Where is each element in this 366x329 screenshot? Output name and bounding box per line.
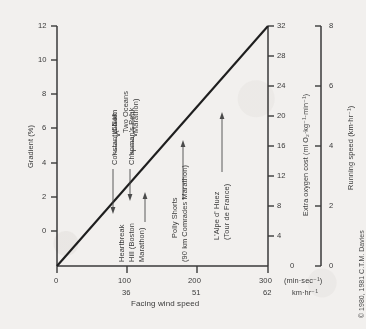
left-tick-10: 10 bbox=[38, 55, 47, 64]
x-axis-ticks bbox=[57, 266, 268, 273]
x-tick-100: 100 bbox=[118, 276, 131, 285]
x-tick-300: 300 bbox=[259, 276, 272, 285]
right-tick-8: 8 bbox=[329, 21, 333, 30]
left-tick-12: 12 bbox=[38, 21, 47, 30]
x-unit-minsec: (min·sec⁻¹) bbox=[284, 276, 322, 285]
y-axis-oxygen-cost-title: Extra oxygen cost (ml O₂·kg⁻¹·min⁻¹) bbox=[301, 94, 310, 216]
mid-tick-20: 20 bbox=[277, 111, 286, 120]
left-tick-4: 4 bbox=[42, 158, 46, 167]
right-tick-4: 4 bbox=[329, 141, 333, 150]
left-tick-6: 6 bbox=[42, 123, 46, 132]
x-tick-secondary-36: 36 bbox=[122, 288, 131, 297]
annotation-two-oceans-line2: Two Oceans bbox=[121, 91, 130, 133]
mid-tick-24: 24 bbox=[277, 81, 286, 90]
mid-tick-0: 0 bbox=[290, 261, 294, 270]
annotation-polly-shorts-line2: (90 km Comrades Marathon) bbox=[180, 165, 189, 262]
right-tick-6: 6 bbox=[329, 81, 333, 90]
annotation-two-oceans-line3: Marathon) bbox=[131, 98, 140, 133]
mid-tick-32: 32 bbox=[277, 21, 286, 30]
annotation-alpe-dhuez-line2: (Tour de France) bbox=[222, 184, 231, 240]
left-tick-0: 0 bbox=[42, 226, 46, 235]
annotation-heartbreak-line2: Hill (Boston bbox=[127, 223, 136, 262]
mid-tick-12: 12 bbox=[277, 171, 286, 180]
annotation-alpe-dhuez-line1: L'Alpe d' Huez bbox=[212, 191, 221, 240]
right-tick-2: 2 bbox=[329, 201, 333, 210]
left-axis-ticks bbox=[51, 26, 57, 231]
left-tick-8: 8 bbox=[42, 89, 46, 98]
mid-tick-28: 28 bbox=[277, 51, 286, 60]
x-tick-secondary-62: 62 bbox=[263, 288, 272, 297]
x-tick-secondary-51: 51 bbox=[192, 288, 201, 297]
right-tick-0: 0 bbox=[329, 261, 333, 270]
x-tick-0: 0 bbox=[54, 276, 58, 285]
oxygen-cost-axis-ticks bbox=[268, 26, 274, 236]
y-axis-left-title: Gradient (%) bbox=[26, 125, 35, 168]
x-tick-200: 200 bbox=[188, 276, 201, 285]
annotation-two-oceans-line1: (56 km bbox=[110, 110, 119, 133]
annotation-polly-shorts-line1: Polly Shorts bbox=[170, 197, 179, 238]
x-unit-kmhr: km·hr⁻¹ bbox=[292, 288, 318, 297]
annotation-heartbreak-line3: Marathon) bbox=[137, 227, 146, 262]
y-axis-running-speed-title: Running speed (km·hr⁻¹) bbox=[346, 106, 355, 190]
mid-tick-4: 4 bbox=[277, 231, 281, 240]
mid-tick-16: 16 bbox=[277, 141, 286, 150]
left-tick-2: 2 bbox=[42, 192, 46, 201]
copyright-notice: © 1980, 1981 C.T.M. Davies bbox=[358, 230, 365, 318]
annotation-heartbreak-line1: Heartbreak bbox=[117, 224, 126, 262]
running-speed-axis-ticks bbox=[315, 26, 321, 266]
mid-tick-8: 8 bbox=[277, 201, 281, 210]
nomogram-line bbox=[57, 26, 268, 266]
x-axis-title: Facing wind speed bbox=[131, 299, 199, 308]
